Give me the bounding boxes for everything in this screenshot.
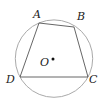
quadrilateral-abcd	[20, 23, 88, 77]
label-o: O	[40, 56, 49, 69]
label-b: B	[76, 10, 85, 23]
label-d: D	[5, 73, 15, 86]
center-point-o	[52, 58, 55, 61]
label-c: C	[89, 73, 98, 86]
label-a: A	[32, 8, 41, 21]
geometry-diagram: A B C D O	[0, 0, 103, 102]
